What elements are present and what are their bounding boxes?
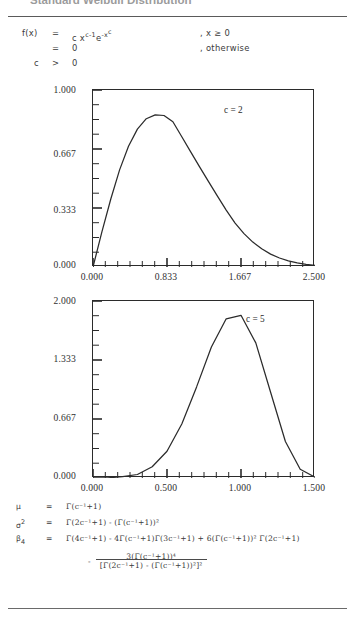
variance-symbol: σ2 [16, 518, 25, 530]
beta4-fraction: - 3(Γ(c⁻¹+1))⁴ [Γ(2c⁻¹+1) - (Γ(c⁻¹+1))²]… [88, 552, 207, 571]
chart-c5-ytick-1: 1.333 [30, 353, 76, 364]
chart-c5-xtick-2: 1.000 [214, 482, 266, 493]
chart-c5-xtick-1: 0.500 [140, 482, 192, 493]
beta4-expression: Γ(4c⁻¹+1) - 4Γ(c⁻¹+1)Γ(3c⁻¹+1) + 6(Γ(c⁻¹… [66, 534, 300, 543]
moment-row-variance: σ2 = Γ(2c⁻¹+1) - (Γ(c⁻¹+1))² [0, 518, 355, 534]
moment-row-beta4: β4 = Γ(4c⁻¹+1) - 4Γ(c⁻¹+1)Γ(3c⁻¹+1) + 6(… [0, 534, 355, 550]
document-page: Standard Weibull Distribution f(x) = c x… [0, 0, 355, 625]
chart-c5-ytick-3: 0.000 [30, 470, 76, 481]
variance-expression: Γ(2c⁻¹+1) - (Γ(c⁻¹+1))² [66, 518, 159, 527]
beta4-fraction-denominator: [Γ(2c⁻¹+1) - (Γ(c⁻¹+1))²]² [96, 559, 207, 570]
chart-c5-svg [93, 301, 315, 478]
moment-row-beta4-fraction: - 3(Γ(c⁻¹+1))⁴ [Γ(2c⁻¹+1) - (Γ(c⁻¹+1))²]… [0, 550, 355, 580]
beta4-symbol: β4 [16, 534, 25, 546]
mean-symbol: μ [16, 502, 21, 511]
moments-block: μ = Γ(c⁻¹+1) σ2 = Γ(2c⁻¹+1) - (Γ(c⁻¹+1))… [0, 502, 355, 580]
beta4-symbol-sub: 4 [21, 538, 25, 546]
chart-c5-xtick-3: 1.500 [288, 482, 340, 493]
chart-c5: 2.000 1.333 0.667 0.000 [0, 0, 355, 500]
mean-equals: = [46, 502, 53, 511]
variance-symbol-sup: 2 [21, 518, 25, 526]
beta4-fraction-minus: - [88, 557, 91, 566]
chart-c5-curve [93, 315, 315, 478]
footer-rule [8, 608, 347, 609]
chart-c5-plot-area [92, 300, 314, 477]
beta4-equals: = [46, 534, 53, 543]
mean-expression: Γ(c⁻¹+1) [66, 502, 101, 511]
chart-c5-y-ticks [93, 301, 102, 463]
chart-c5-ytick-0: 2.000 [30, 295, 76, 306]
chart-c5-annotation: c = 5 [246, 314, 265, 324]
chart-c5-xtick-0: 0.000 [66, 482, 118, 493]
chart-c5-ytick-2: 0.667 [30, 412, 76, 423]
moment-row-mean: μ = Γ(c⁻¹+1) [0, 502, 355, 518]
variance-equals: = [46, 518, 53, 527]
beta4-fraction-body: 3(Γ(c⁻¹+1))⁴ [Γ(2c⁻¹+1) - (Γ(c⁻¹+1))²]² [96, 552, 207, 571]
